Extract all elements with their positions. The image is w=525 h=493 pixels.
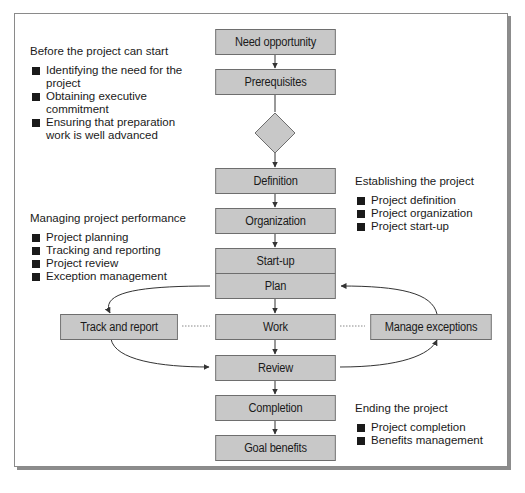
node-label: Definition: [253, 174, 297, 188]
node-completion[interactable]: Completion: [215, 395, 336, 421]
node-definition[interactable]: Definition: [215, 168, 336, 194]
section-heading: Before the project can start: [30, 45, 205, 58]
node-prerequisites[interactable]: Prerequisites: [215, 69, 336, 95]
node-label: Manage exceptions: [385, 320, 478, 334]
node-label: Goal benefits: [244, 441, 307, 455]
section-item: Project completion: [355, 421, 505, 434]
section-ending: Ending the project Project completion Be…: [355, 402, 505, 447]
node-label: Prerequisites: [244, 75, 306, 89]
section-item: Exception management: [30, 270, 205, 283]
node-label: Completion: [248, 401, 302, 415]
node-label: Plan: [265, 279, 286, 293]
section-list: Identifying the need for the project Obt…: [30, 64, 205, 142]
section-heading: Establishing the project: [355, 175, 505, 188]
node-work[interactable]: Work: [215, 314, 336, 340]
section-managing: Managing project performance Project pla…: [30, 212, 205, 283]
node-label: Review: [258, 361, 293, 375]
node-label: Start-up: [257, 254, 295, 268]
node-plan[interactable]: Plan: [215, 273, 336, 299]
node-label: Work: [263, 320, 288, 334]
section-item: Tracking and reporting: [30, 244, 205, 257]
section-item: Identifying the need for the project: [30, 64, 205, 90]
section-list: Project planning Tracking and reporting …: [30, 231, 205, 283]
section-item: Project review: [30, 257, 205, 270]
section-item: Project start-up: [355, 220, 505, 233]
section-before-start: Before the project can start Identifying…: [30, 45, 205, 142]
section-item: Obtaining executive commitment: [30, 90, 205, 116]
node-label: Organization: [245, 214, 305, 228]
node-review[interactable]: Review: [215, 355, 336, 381]
node-need-opportunity[interactable]: Need opportunity: [215, 29, 336, 55]
node-track-and-report[interactable]: Track and report: [60, 314, 178, 340]
node-manage-exceptions[interactable]: Manage exceptions: [370, 314, 491, 340]
section-heading: Ending the project: [355, 402, 505, 415]
section-list: Project completion Benefits management: [355, 421, 505, 447]
section-item: Project planning: [30, 231, 205, 244]
section-establishing: Establishing the project Project definit…: [355, 175, 505, 233]
section-item: Ensuring that preparation work is well a…: [30, 116, 186, 142]
section-list: Project definition Project organization …: [355, 194, 505, 233]
node-organization[interactable]: Organization: [215, 208, 336, 234]
section-item: Benefits management: [355, 434, 505, 447]
node-goal-benefits[interactable]: Goal benefits: [215, 435, 336, 461]
node-label: Track and report: [80, 320, 158, 334]
node-start-up[interactable]: Start-up: [215, 248, 336, 274]
section-heading: Managing project performance: [30, 212, 205, 225]
decision-diamond: [255, 113, 295, 153]
section-item: Project definition: [355, 194, 505, 207]
node-label: Need opportunity: [235, 35, 316, 49]
section-item: Project organization: [355, 207, 505, 220]
